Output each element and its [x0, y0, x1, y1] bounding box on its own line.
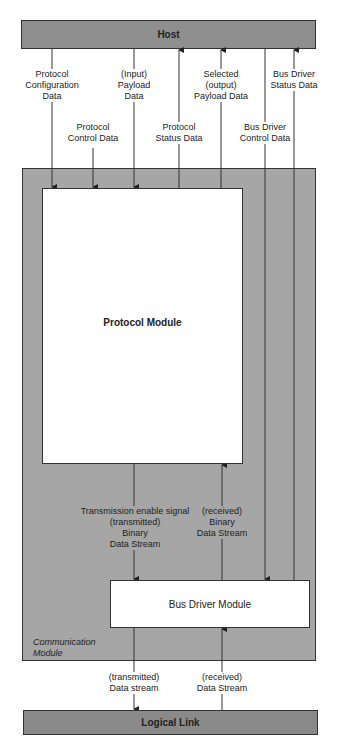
- bus-driver-module-label: Bus Driver Module: [169, 599, 251, 610]
- label-output-payload: Selected(output)Payload Data: [194, 69, 248, 102]
- label-received-binary: (received)BinaryData Stream: [197, 506, 248, 539]
- label-busdriver-status: Bus DriverStatus Data: [270, 69, 317, 91]
- logical-link-block: Logical Link: [23, 710, 318, 735]
- bus-driver-module-block: Bus Driver Module: [110, 580, 310, 628]
- label-protocol-control: ProtocolControl Data: [68, 122, 119, 144]
- label-protocol-config: ProtocolConfigurationData: [25, 69, 79, 102]
- protocol-module-block: Protocol Module: [42, 188, 243, 464]
- logical-link-label: Logical Link: [141, 717, 199, 728]
- protocol-module-label: Protocol Module: [103, 317, 181, 463]
- label-transmitted-stream: (transmitted)Data stream: [109, 672, 160, 694]
- label-received-stream: (received)Data Stream: [197, 672, 248, 694]
- label-transmitted-binary: Transmission enable signal(transmitted)B…: [81, 506, 190, 550]
- label-busdriver-control: Bus DriverControl Data: [240, 122, 291, 144]
- label-protocol-status: ProtocolStatus Data: [155, 122, 202, 144]
- label-input-payload: (Input)PayloadData: [118, 69, 151, 102]
